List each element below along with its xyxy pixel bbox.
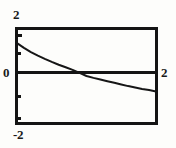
y-axis-label-top: 2	[13, 8, 19, 21]
plot-canvas	[0, 0, 176, 148]
y-axis-label-bottom: -2	[13, 128, 23, 141]
plot-figure: 2 0 -2 2	[0, 0, 176, 148]
y-axis-label-zero: 0	[3, 66, 9, 79]
data-series-curve	[17, 43, 156, 91]
x-axis-label-right: 2	[161, 66, 167, 79]
